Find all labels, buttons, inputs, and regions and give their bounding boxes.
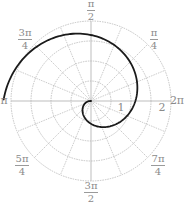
angle-label: 3π4 [15, 28, 35, 51]
radial-tick-label: 1 [116, 103, 126, 113]
angle-label-denominator: 2 [88, 11, 94, 22]
angle-label-numerator: 3π [18, 28, 33, 40]
angle-label: π [0, 96, 12, 106]
angle-label: 7π4 [148, 154, 168, 177]
angle-label-denominator: 2 [88, 193, 94, 202]
angle-label-numerator: π [150, 28, 159, 40]
angle-label: 3π2 [81, 181, 101, 202]
angle-label: 5π4 [12, 154, 32, 177]
angle-label-denominator: 4 [19, 166, 25, 177]
angle-label-numerator: 5π [15, 154, 30, 166]
angle-label: π4 [144, 28, 164, 51]
angle-label-denominator: 4 [155, 166, 161, 177]
grid-spoke [91, 44, 148, 101]
angle-label-numerator: π [87, 0, 96, 11]
angle-label-denominator: 4 [22, 40, 28, 51]
radial-tick-label: 2 [157, 103, 167, 113]
angle-label-numerator: 3π [84, 181, 99, 193]
angle-label-numerator: 7π [151, 154, 166, 166]
angle-label-denominator: 4 [151, 40, 157, 51]
grid-spoke [34, 44, 91, 101]
angle-label: π2 [81, 0, 101, 22]
angle-label: 2π [169, 96, 184, 106]
